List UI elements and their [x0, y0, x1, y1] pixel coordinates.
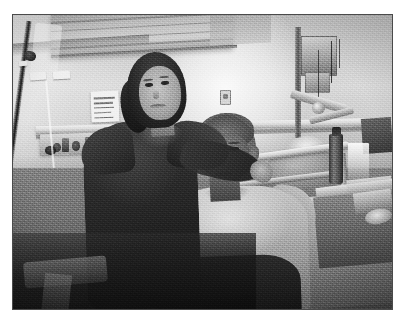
woman-nose — [153, 89, 159, 99]
iv-label-tag — [30, 72, 46, 80]
wall-outlet — [220, 90, 232, 106]
iv-label-tag — [53, 70, 70, 79]
photograph-frame — [12, 14, 393, 310]
page-canvas — [0, 0, 407, 325]
iv-label-tag — [19, 61, 28, 67]
plastic-cup — [348, 143, 369, 181]
foreground-chair-leg — [41, 272, 72, 309]
photograph-image — [13, 15, 392, 309]
wall-notice — [90, 91, 119, 123]
gas-outlet-valve — [62, 138, 68, 151]
window-pane — [210, 15, 271, 46]
water-bottle-cap — [332, 127, 341, 136]
water-bottle — [329, 134, 343, 184]
woman-eye — [161, 81, 169, 85]
gas-outlet-knob — [72, 141, 80, 150]
